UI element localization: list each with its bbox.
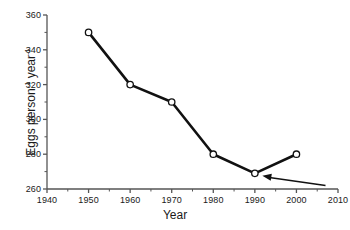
data-markers <box>85 29 299 176</box>
y-axis-title-sup-2: -1 <box>23 48 32 55</box>
egg-consumption-line-chart: 260280300320340360 194019501960197019801… <box>0 0 350 230</box>
data-point-marker <box>252 170 258 176</box>
x-tick-label-1940: 1940 <box>37 195 57 205</box>
x-tick-label-1960: 1960 <box>120 195 140 205</box>
x-tick-label-1950: 1950 <box>78 195 98 205</box>
data-point-marker <box>85 29 91 35</box>
data-point-marker <box>127 81 133 87</box>
x-tick-label-1990: 1990 <box>245 195 265 205</box>
data-line-eggs <box>89 32 297 173</box>
y-axis-title-mid: year <box>24 55 38 82</box>
data-point-marker <box>293 151 299 157</box>
x-tick-label-2000: 2000 <box>286 195 306 205</box>
x-tick-label-1970: 1970 <box>161 195 181 205</box>
x-axis-title: Year <box>0 208 350 222</box>
data-point-marker <box>210 151 216 157</box>
data-point-marker <box>169 99 175 105</box>
x-tick-label-1980: 1980 <box>203 195 223 205</box>
x-tick-label-2010: 2010 <box>328 195 348 205</box>
y-axis-title: Eggs person-1 year-1 <box>24 17 38 187</box>
y-axis-title-sup-1: -1 <box>23 82 32 89</box>
annotation-arrow-icon <box>262 174 325 186</box>
y-axis-title-lead: Eggs person <box>24 88 38 155</box>
